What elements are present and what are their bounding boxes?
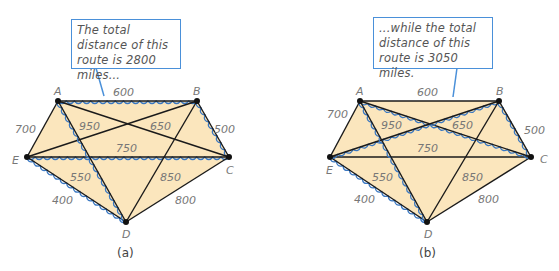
callout-b: ...while the total distance of this rout… bbox=[373, 17, 493, 69]
weight-ad: 550 bbox=[70, 171, 91, 184]
weight-dc: 800 bbox=[175, 194, 196, 207]
caption-b: (b) bbox=[419, 246, 436, 260]
vertex-b bbox=[194, 98, 200, 104]
callout-pointer-b bbox=[453, 68, 457, 97]
vertex-label-a: A bbox=[355, 85, 364, 98]
vertex-label-c: C bbox=[226, 164, 234, 177]
weight-ab: 600 bbox=[113, 86, 134, 99]
vertex-c bbox=[226, 154, 232, 160]
vertex-label-e: E bbox=[12, 154, 19, 167]
weight-ab: 600 bbox=[417, 86, 438, 99]
vertex-a bbox=[357, 98, 363, 104]
vertex-e bbox=[24, 154, 30, 160]
weight-ae: 700 bbox=[327, 108, 348, 121]
weight-ac: 950 bbox=[381, 119, 402, 132]
weight-ec: 750 bbox=[116, 142, 137, 155]
vertex-label-b: B bbox=[496, 85, 504, 98]
weight-eb: 650 bbox=[150, 120, 171, 133]
vertex-e bbox=[327, 154, 333, 160]
weight-bd: 850 bbox=[462, 171, 483, 184]
vertex-a bbox=[55, 98, 61, 104]
weight-bd: 850 bbox=[160, 171, 181, 184]
weight-ec: 750 bbox=[417, 142, 438, 155]
panel-b: 600 500 700 750 400 800 950 650 550 850 … bbox=[326, 68, 548, 260]
weight-bc: 500 bbox=[524, 124, 545, 137]
vertex-b bbox=[496, 98, 502, 104]
weight-ad: 550 bbox=[372, 171, 393, 184]
panel-a: 600 500 700 750 400 800 950 650 550 850 … bbox=[12, 68, 235, 260]
weight-ac: 950 bbox=[79, 120, 100, 133]
vertex-d bbox=[424, 219, 430, 225]
weight-eb: 650 bbox=[452, 119, 473, 132]
weight-ed: 400 bbox=[354, 193, 375, 206]
vertex-label-b: B bbox=[193, 85, 201, 98]
vertex-label-a: A bbox=[53, 85, 62, 98]
vertex-c bbox=[528, 154, 534, 160]
vertex-label-e: E bbox=[326, 164, 333, 177]
callout-a: The total distance of this route is 2800… bbox=[71, 19, 181, 69]
vertex-label-d: D bbox=[424, 228, 432, 241]
weight-ae: 700 bbox=[15, 123, 36, 136]
vertex-label-c: C bbox=[540, 153, 548, 166]
vertex-d bbox=[123, 219, 129, 225]
weight-bc: 500 bbox=[214, 123, 235, 136]
weight-dc: 800 bbox=[478, 193, 499, 206]
weight-ed: 400 bbox=[52, 194, 73, 207]
vertex-label-d: D bbox=[122, 228, 130, 241]
caption-a: (a) bbox=[117, 246, 134, 260]
